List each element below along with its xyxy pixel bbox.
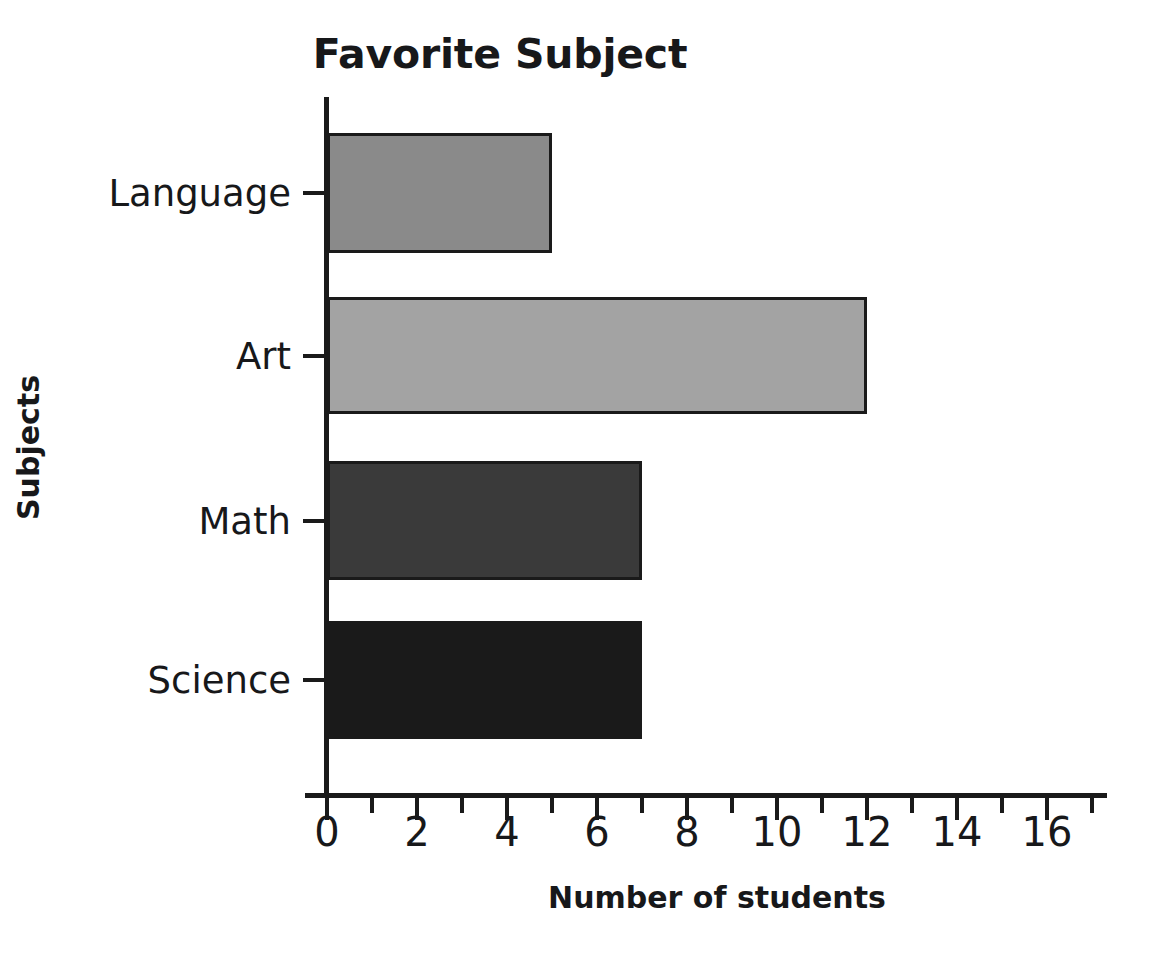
y-tick-math — [303, 519, 329, 523]
x-tick-minor-1 — [370, 798, 374, 813]
x-axis-title: Number of students — [327, 880, 1107, 915]
y-tick-science — [303, 678, 329, 682]
x-tick-label-14: 14 — [917, 812, 997, 852]
x-tick-label-6: 6 — [557, 812, 637, 852]
y-tick-label-math: Math — [198, 502, 291, 539]
x-tick-minor-5 — [550, 798, 554, 813]
y-tick-art — [303, 354, 329, 358]
y-tick-language — [303, 191, 329, 195]
x-tick-minor-13 — [910, 798, 914, 813]
x-tick-minor-11 — [820, 798, 824, 813]
bar-chart: Favorite Subject Subjects Number of stud… — [0, 0, 1150, 962]
x-tick-minor-3 — [460, 798, 464, 813]
x-tick-label-10: 10 — [737, 812, 817, 852]
y-tick-label-art: Art — [236, 337, 291, 374]
x-tick-minor-9 — [730, 798, 734, 813]
bar-art — [327, 297, 867, 414]
bar-science — [327, 621, 642, 739]
x-tick-label-12: 12 — [827, 812, 907, 852]
x-tick-minor-7 — [640, 798, 644, 813]
x-tick-label-0: 0 — [287, 812, 367, 852]
x-axis-line — [305, 793, 1107, 798]
chart-title: Favorite Subject — [0, 30, 1000, 78]
x-tick-minor-15 — [1000, 798, 1004, 813]
y-tick-label-language: Language — [108, 175, 291, 212]
x-tick-label-16: 16 — [1007, 812, 1087, 852]
y-axis-title: Subjects — [11, 358, 46, 538]
bar-math — [327, 461, 642, 580]
x-tick-label-4: 4 — [467, 812, 547, 852]
bar-language — [327, 133, 552, 253]
y-tick-label-science: Science — [148, 662, 291, 699]
x-tick-minor-17 — [1090, 798, 1094, 813]
x-tick-label-8: 8 — [647, 812, 727, 852]
x-tick-label-2: 2 — [377, 812, 457, 852]
